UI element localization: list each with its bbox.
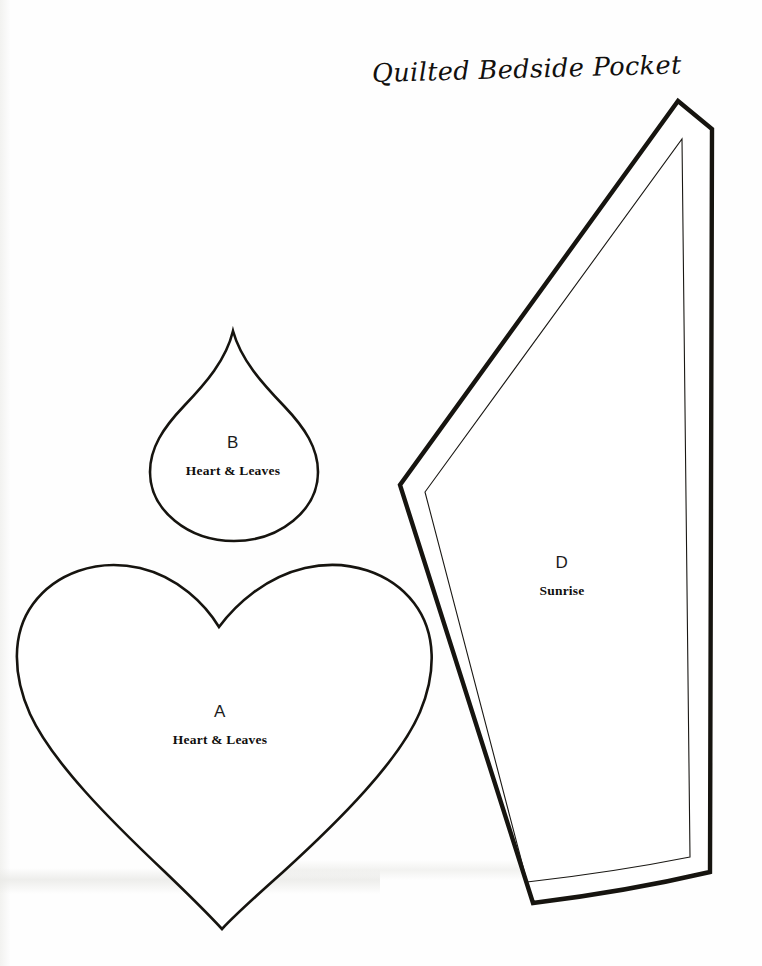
piece-d-letter: D [487, 553, 637, 573]
piece-a-label: A Heart & Leaves [120, 702, 320, 748]
piece-d-label: D Sunrise [487, 553, 637, 599]
piece-a-name: Heart & Leaves [120, 732, 320, 748]
piece-b-label: B Heart & Leaves [148, 433, 318, 479]
piece-d-sunrise-outline [400, 101, 712, 903]
pattern-sheet-page: Quilted Bedside Pocket A Heart & Leaves … [0, 0, 762, 966]
piece-d-name: Sunrise [487, 583, 637, 599]
piece-a-letter: A [120, 702, 320, 722]
piece-b-letter: B [148, 433, 318, 453]
piece-b-name: Heart & Leaves [148, 463, 318, 479]
pattern-pieces-illustration [0, 0, 762, 966]
